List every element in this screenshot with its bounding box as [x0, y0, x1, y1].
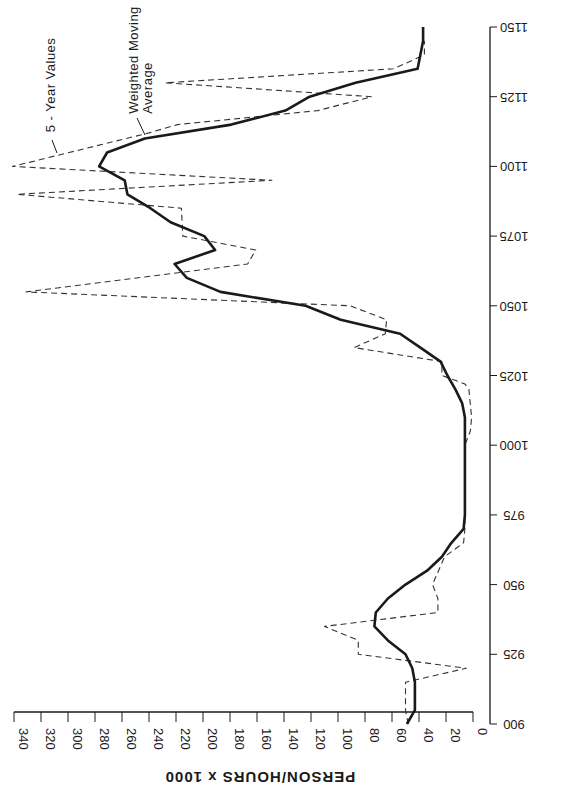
year-tick-label: 1150	[500, 20, 528, 35]
value-tick-label: 240	[151, 728, 166, 750]
rotated-line-chart: 0204060801001201401601802002202402602803…	[0, 0, 563, 793]
five-year-leader-line	[52, 140, 57, 153]
value-tick-label: 140	[286, 728, 301, 750]
wma-label-line1: Weighted Moving	[126, 6, 141, 114]
five-year-values-line	[13, 41, 472, 724]
value-tick-label: 60	[394, 728, 409, 742]
value-tick-label: 320	[43, 728, 58, 750]
weighted-moving-average-line	[99, 27, 465, 724]
value-tick-label: 260	[124, 728, 139, 750]
value-axis-title: PERSON/HOURS x 1000	[165, 769, 356, 786]
value-tick-label: 20	[448, 728, 463, 742]
value-tick-label: 100	[340, 728, 355, 750]
year-tick-label: 925	[503, 647, 525, 662]
five-year-values-label: 5 - Year Values	[43, 38, 58, 133]
year-tick-label: 1000	[500, 438, 529, 453]
value-tick-label: 0	[475, 728, 490, 735]
wma-label-line2: Average	[140, 62, 155, 114]
year-tick-label: 950	[503, 578, 525, 593]
value-tick-label: 120	[313, 728, 328, 750]
year-tick-label: 975	[503, 508, 525, 523]
year-tick-label: 1075	[500, 229, 529, 244]
year-tick-label: 1125	[500, 90, 528, 105]
series-layer	[13, 27, 472, 724]
value-tick-label: 340	[16, 728, 31, 750]
value-tick-label: 280	[97, 728, 112, 750]
year-tick-label: 1025	[500, 369, 529, 384]
value-tick-label: 180	[232, 728, 247, 750]
value-axis: 0204060801001201401601802002202402602803…	[14, 712, 490, 750]
value-tick-label: 160	[259, 728, 274, 750]
year-tick-label: 1100	[500, 159, 528, 174]
year-tick-label: 1050	[500, 299, 529, 314]
value-tick-label: 220	[178, 728, 193, 750]
year-axis: 9009259509751000102510501075110011251150	[490, 20, 528, 732]
annotations: PERSON/HOURS x 1000 5 - Year Values Weig…	[43, 6, 355, 786]
value-tick-label: 40	[421, 728, 436, 742]
value-tick-label: 200	[205, 728, 220, 750]
value-tick-label: 300	[70, 728, 85, 750]
wma-leader-line	[137, 118, 145, 135]
value-tick-label: 80	[367, 728, 382, 742]
year-tick-label: 900	[503, 717, 525, 732]
